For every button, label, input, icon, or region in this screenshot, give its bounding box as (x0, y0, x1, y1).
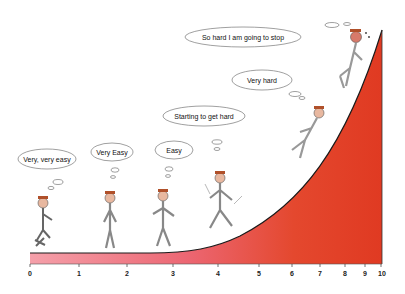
thought-text: Starting to get hard (174, 113, 234, 121)
tick-label: 3 (171, 270, 175, 277)
thought-text: Very Easy (96, 149, 128, 157)
thought-text: Very, very easy (23, 156, 71, 164)
tick-label: 1 (77, 270, 81, 277)
figure-climbing (292, 106, 324, 158)
tick-label: 7 (318, 270, 322, 277)
tick-label: 8 (343, 270, 347, 277)
tick-label: 5 (257, 270, 261, 277)
figure-standing (104, 191, 116, 248)
tick-label: 2 (125, 270, 129, 277)
tick-label: 9 (363, 270, 367, 277)
tick-label: 10 (378, 270, 386, 277)
tick-label: 6 (290, 270, 294, 277)
thought-text: Easy (166, 147, 182, 155)
tick-label: 0 (28, 270, 32, 277)
axis-labels: 0 1 2 3 4 5 6 7 8 9 10 (28, 270, 386, 277)
figure-sitting (35, 196, 52, 246)
tick-label: 4 (216, 270, 220, 277)
thought-text: So hard I am going to stop (202, 34, 284, 42)
effort-area (30, 30, 382, 264)
effort-curve-illustration: 0 1 2 3 4 5 6 7 8 9 10 Very, very easy V… (0, 0, 405, 294)
axis-ticks (30, 264, 381, 267)
thought-text: Very hard (247, 77, 277, 85)
figure-running (205, 171, 242, 228)
figure-walking (153, 189, 174, 246)
